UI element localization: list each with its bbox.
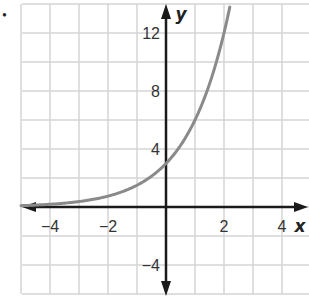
x-tick-label: 4 xyxy=(278,218,287,235)
x-tick-label: −4 xyxy=(41,218,59,235)
x-tick-label: −2 xyxy=(99,218,117,235)
exponential-graph: • −4−2241284−4xy xyxy=(0,0,309,302)
y-tick-label: 8 xyxy=(151,83,160,100)
x-axis-label: x xyxy=(294,216,307,236)
y-tick-label: −4 xyxy=(142,257,160,274)
y-tick-label: 12 xyxy=(142,25,160,42)
axes xyxy=(22,4,308,296)
problem-bullet: • xyxy=(2,8,7,23)
y-tick-label: 4 xyxy=(151,141,160,158)
exponential-curve xyxy=(21,7,230,206)
y-axis-up-arrow-icon xyxy=(161,4,171,19)
y-axis-label: y xyxy=(175,4,187,24)
tick-labels: −4−2241284−4xy xyxy=(41,4,307,274)
x-tick-label: 2 xyxy=(220,218,229,235)
x-axis-right-arrow-icon xyxy=(294,202,308,212)
